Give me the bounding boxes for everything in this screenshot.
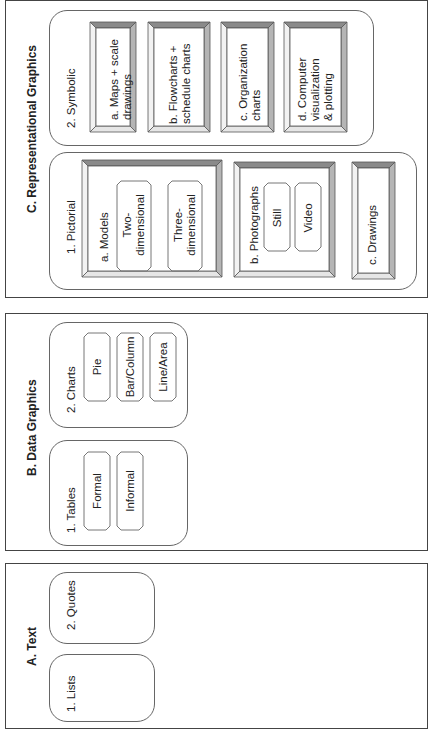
models-item-two-dimensional: Two- dimensional [121,186,147,264]
symbolic-item-maps: a. Maps + scale drawings [108,39,134,120]
models-item-three-dimensional: Three- dimensional [172,186,198,264]
group-quotes-label: 2. Quotes [65,580,78,630]
chart-item-pie: Pie [91,333,104,401]
symbolic-item-organization: c. Organization charts [237,44,263,121]
section-b-title: B. Data Graphics [26,379,39,476]
photographs-label: b. Photographs [248,186,261,264]
drawings-label: c. Drawings [366,205,379,265]
symbolic-item-flowcharts: b. Flowcharts + schedule charts [167,43,193,124]
group-lists-label: 1. Lists [65,676,78,712]
table-item-formal: Formal [91,452,104,530]
table-item-informal: Informal [124,452,137,530]
photographs-item-video: Video [302,186,315,250]
group-charts-label: 2. Charts [65,366,78,413]
chart-item-line-area: Line/Area [157,333,170,401]
models-label: a. Models [98,212,111,262]
section-a-title: A. Text [26,627,39,666]
chart-item-bar-column: Bar/Column [124,333,137,401]
photographs-item-still: Still [271,186,284,250]
symbolic-item-computer: d. Computer visualization & plotting [296,58,335,121]
group-tables-label: 1. Tables [65,487,78,533]
